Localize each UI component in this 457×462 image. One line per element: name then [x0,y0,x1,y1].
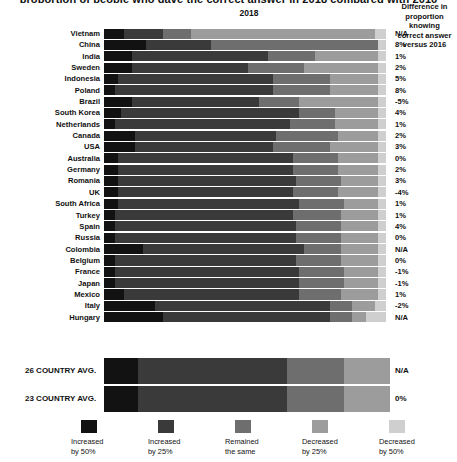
average-row: 26 COUNTRY AVG.N/A [0,357,457,385]
legend-swatch-icon [158,420,174,433]
legend-label-line1: Decreased [379,437,415,447]
country-label: Poland [0,85,104,96]
bar-segment [378,289,386,299]
bar-segment [273,74,329,84]
bar-segment [341,233,378,243]
bar-segment [115,267,298,277]
country-label: South Korea [0,107,104,118]
table-row: Spain4% [0,221,457,232]
difference-value: 2% [386,130,457,141]
country-label: Russia [0,232,104,243]
bar-segment [378,85,386,95]
bar-segment [104,119,115,129]
country-label: China [0,39,104,50]
bar-segment [211,40,377,50]
country-label: USA [0,141,104,152]
bar-segment [299,108,336,118]
table-row: Romania3% [0,175,457,186]
bar-segment [115,221,295,231]
bar-segment [143,244,304,254]
country-label: Hungary [0,312,104,323]
bar-segment [104,233,115,243]
difference-value: -1% [386,266,457,277]
bar-segment [104,51,132,61]
country-label: India [0,51,104,62]
chart-legend: Increasedby 50%Increasedby 25%Remainedth… [64,420,449,456]
bar-segment [378,131,386,141]
bar-segment [118,187,293,197]
difference-value: 3% [386,141,457,152]
bar-segment [299,199,344,209]
legend-item-increased_50: Increasedby 50% [64,420,141,456]
difference-value: 1% [386,198,457,209]
bar-segment [378,210,386,220]
stacked-bar [104,312,386,322]
bar-segment [104,210,115,220]
legend-item-remained_same: Remainedthe same [218,420,295,456]
difference-value: 1% [386,289,457,300]
bar-segment [163,312,329,322]
legend-label-line2: the same [225,447,255,457]
bar-segment [344,267,378,277]
country-label: France [0,266,104,277]
legend-label-line2: by 50% [71,447,96,457]
bar-segment [104,199,118,209]
table-row: UK-4% [0,187,457,198]
bar-segment [378,63,386,73]
stacked-bar [104,221,386,231]
bar-segment [378,187,386,197]
difference-value: N/A [386,312,457,323]
country-label: Sweden [0,62,104,73]
table-row: Brazil-5% [0,96,457,107]
difference-value: 1% [386,119,457,130]
bar-segment [293,165,338,175]
bar-segment [104,97,132,107]
bar-segment [296,176,341,186]
bar-segment [378,267,386,277]
bar-segment [104,153,118,163]
table-row: Japan-1% [0,278,457,289]
bar-segment [104,108,121,118]
stacked-bar [104,278,386,288]
table-row: USA3% [0,141,457,152]
stacked-bar [104,176,386,186]
difference-value: 8% [386,85,457,96]
stacked-bar [104,119,386,129]
bar-segment [330,74,378,84]
table-row: Indonesia5% [0,73,457,84]
bar-segment [344,386,390,412]
table-row: Poland8% [0,85,457,96]
bar-segment [104,221,115,231]
table-row: South Korea4% [0,107,457,118]
country-label: Mexico [0,289,104,300]
average-difference-value: 0% [390,385,457,413]
legend-item-increased_25: Increasedby 25% [141,420,218,456]
country-label: Romania [0,175,104,186]
average-label: 26 COUNTRY AVG. [0,357,104,385]
bar-segment [338,153,377,163]
country-label: Brazil [0,96,104,107]
bar-segment [104,29,124,39]
bar-segment [115,278,298,288]
bar-segment [104,255,115,265]
stacked-bar [104,233,386,243]
bar-segment [104,176,118,186]
table-row: VietnamN/A [0,28,457,39]
bar-segment [155,301,330,311]
difference-value: 8% [386,39,457,50]
difference-value: 3% [386,175,457,186]
bar-segment [135,131,276,141]
bar-segment [287,358,344,384]
bar-segment [104,165,118,175]
bar-segment [138,358,287,384]
bar-segment [299,278,344,288]
bar-segment [378,74,386,84]
table-row: Belgium0% [0,255,457,266]
legend-swatch-icon [81,420,97,433]
bar-segment [104,301,155,311]
difference-header-line1: Difference in proportion knowing [392,2,457,31]
bar-segment [378,119,386,129]
table-row: France-1% [0,266,457,277]
average-stacked-bar [104,386,390,412]
bar-segment [341,289,378,299]
